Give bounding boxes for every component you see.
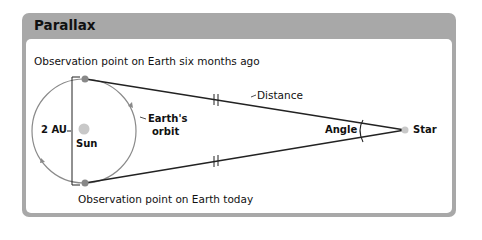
star-label: Star [413,124,437,135]
au-bracket [72,77,80,185]
distance-label: Distance [257,89,303,101]
earth-point-today [82,180,89,187]
angle-label: Angle [325,124,357,135]
star-icon [402,127,409,134]
distance-line-top [85,79,405,130]
earths-orbit-label-line1: Earth's [148,113,187,124]
two-au-label: 2 AU [41,124,67,135]
sun-label: Sun [76,138,97,149]
distance-line-bottom [85,130,405,183]
top-observation-label: Observation point on Earth six months ag… [34,55,260,67]
earths-orbit-label-line2: orbit [152,126,179,137]
earth-point-past [82,76,89,83]
orbit-arrow-icon [40,158,45,163]
bottom-observation-label: Observation point on Earth today [78,193,253,205]
sun-icon [79,124,90,135]
